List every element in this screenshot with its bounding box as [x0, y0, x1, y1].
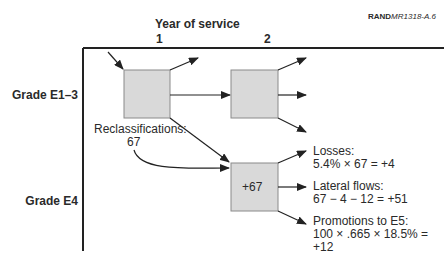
box2-up-arrow	[278, 58, 306, 70]
promotions-annotation: Promotions to E5: 100 × .665 × 18.5% = +…	[313, 215, 428, 254]
credit-bold: RAND	[368, 12, 391, 21]
x-axis-title: Year of service	[155, 17, 240, 31]
losses-arrow	[278, 151, 306, 163]
row-label-e1-3: Grade E1–3	[12, 88, 78, 102]
promotions-arrow	[278, 211, 306, 224]
losses-formula: 5.4% × 67 = +4	[313, 158, 395, 171]
row-label-e4: Grade E4	[25, 194, 78, 208]
losses-annotation: Losses: 5.4% × 67 = +4	[313, 145, 395, 171]
box-e13-year1	[124, 70, 170, 118]
promotions-result: +12	[313, 241, 428, 254]
reclassifications-label: Reclassifications:	[94, 123, 187, 136]
x-tick-1: 1	[156, 32, 163, 46]
reclassification-curve-arrow	[134, 150, 229, 168]
lateral-flows-annotation: Lateral flows: 67 − 4 − 12 = +51	[313, 180, 408, 206]
box2-down-arrow	[278, 118, 306, 132]
lateral-flows-formula: 67 − 4 − 12 = +51	[313, 193, 408, 206]
box1-loss-arrow	[170, 58, 198, 70]
inflow-arrow	[108, 52, 123, 69]
box-e4-value: +67	[242, 181, 262, 194]
x-tick-2: 2	[264, 32, 271, 46]
box-e13-year2	[231, 70, 278, 118]
credit-italic: MR1318-A.6	[391, 12, 436, 21]
reclassifications-value: 67	[127, 136, 140, 149]
figure-credit: RANDMR1318-A.6	[368, 12, 436, 21]
